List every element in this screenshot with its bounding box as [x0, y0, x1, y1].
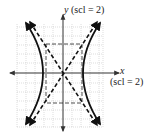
y-axis-label: y: [64, 5, 68, 15]
hyperbola-graph: [0, 0, 147, 139]
x-axis-label: x: [120, 66, 124, 76]
y-axis-scale-label: (scl = 2): [71, 5, 104, 15]
x-axis-scale-label: (scl = 2): [110, 77, 143, 87]
